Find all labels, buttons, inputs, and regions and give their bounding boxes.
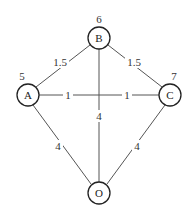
- node-a-value: 5: [19, 70, 25, 82]
- node-o-label: O: [95, 187, 103, 199]
- node-c-value: 7: [171, 70, 177, 82]
- edge-a-c-weight-left: 1: [65, 89, 71, 101]
- node-o: O: [88, 182, 110, 204]
- graph-diagram: 1.5 1.5 1 1 4 4 4 B 6 A 5 C 7 O: [0, 0, 192, 223]
- edge-c-o-weight: 4: [134, 140, 140, 152]
- edge-b-c-weight: 1.5: [127, 56, 141, 68]
- edge-a-b-weight: 1.5: [53, 56, 67, 68]
- node-c-label: C: [166, 89, 173, 101]
- edge-a-c-weight-right: 1: [124, 89, 130, 101]
- edge-a-o-weight: 4: [55, 140, 61, 152]
- node-a: A 5: [17, 70, 39, 106]
- node-b-value: 6: [96, 13, 102, 25]
- node-a-label: A: [24, 89, 32, 101]
- node-c: C 7: [159, 70, 181, 106]
- edge-b-o-weight: 4: [96, 110, 102, 122]
- node-b-label: B: [95, 32, 102, 44]
- node-b: B 6: [88, 13, 110, 49]
